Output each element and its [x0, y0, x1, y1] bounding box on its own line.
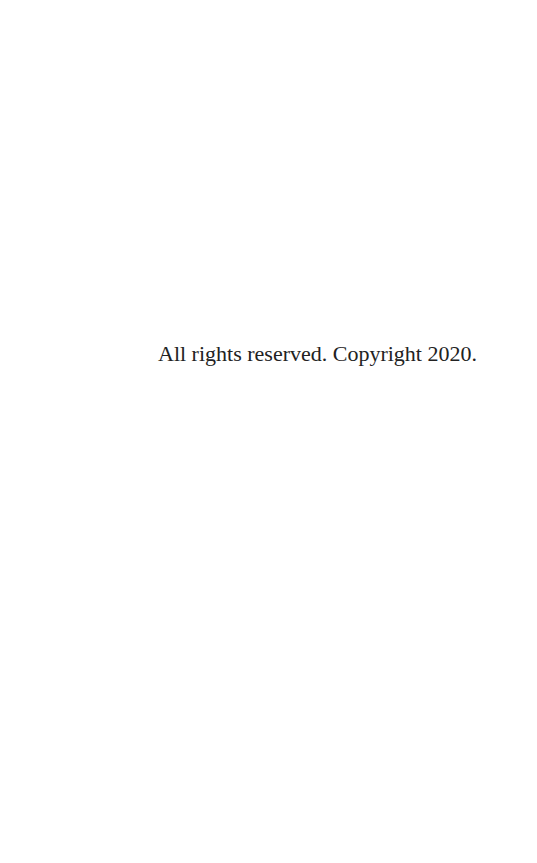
document-page: All rights reserved. Copyright 2020. — [0, 0, 537, 863]
copyright-notice: All rights reserved. Copyright 2020. — [158, 341, 477, 367]
